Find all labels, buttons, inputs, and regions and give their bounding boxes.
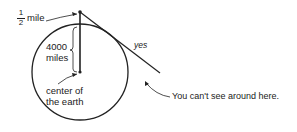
diagram-graphics (0, 0, 297, 132)
earth-horizon-diagram: 1 2 mile 4000 miles center of the earth … (0, 0, 297, 132)
radius-label-line2: miles (46, 52, 68, 63)
center-point (78, 70, 81, 73)
half-mile-label: mile (27, 12, 44, 23)
half-mile-arrowhead (72, 12, 77, 16)
center-label-line2: the earth (46, 96, 84, 107)
half-mile-arrow (46, 14, 77, 21)
center-arrowhead (72, 73, 77, 77)
half-denominator: 2 (17, 19, 25, 27)
radius-label-line1: 4000 (46, 41, 67, 52)
half-numerator: 1 (17, 9, 25, 17)
radius-brace (70, 27, 77, 72)
callout-label: You can't see around here. (172, 91, 279, 102)
center-label-line1: center of (46, 85, 83, 96)
tangent-sight-line (80, 12, 160, 73)
callout-arrow (146, 83, 170, 97)
yes-label: yes (134, 40, 147, 51)
